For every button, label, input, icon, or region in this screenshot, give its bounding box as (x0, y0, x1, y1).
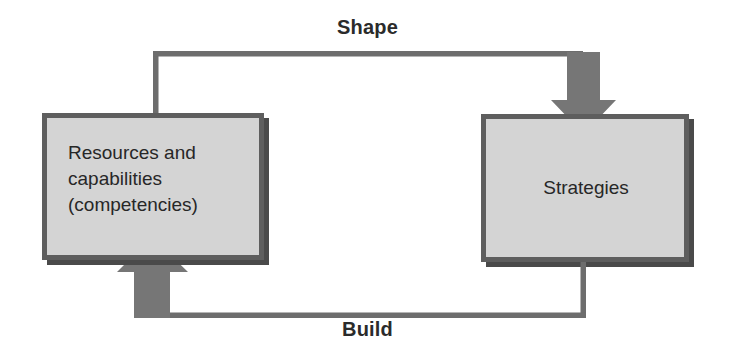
node-label-resources-line1: Resources and (68, 140, 258, 166)
node-label-resources: Resources and capabilities (competencies… (68, 140, 258, 218)
node-label-resources-line2: capabilities (68, 166, 258, 192)
edge-label-build: Build (0, 318, 735, 341)
edge-label-shape: Shape (0, 16, 735, 39)
node-label-resources-line3: (competencies) (68, 192, 258, 218)
diagram-canvas: Shape Build Resources and capabilities (… (0, 0, 735, 355)
node-label-strategies: Strategies (489, 175, 683, 201)
edge-build-connector (167, 262, 586, 318)
edge-shape-connector (153, 51, 583, 115)
